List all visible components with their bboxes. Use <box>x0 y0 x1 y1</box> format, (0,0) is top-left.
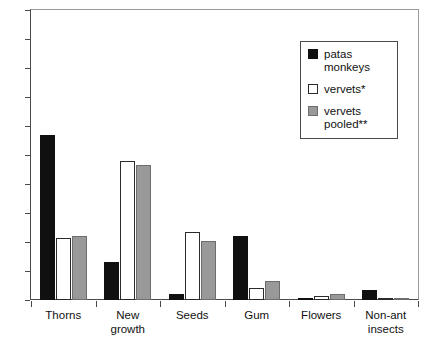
x-axis: ThornsNewgrowthSeedsGumFlowersNon-antins… <box>31 301 418 341</box>
bar-group <box>96 10 161 300</box>
y-tick-mark <box>25 300 30 301</box>
y-tick-mark <box>25 155 30 156</box>
bar <box>362 290 377 300</box>
x-tick-label-line: Gum <box>225 309 290 323</box>
bar <box>330 294 345 300</box>
x-tick-label-line: Flowers <box>289 309 354 323</box>
legend-item[interactable]: vervets* <box>308 83 390 96</box>
x-tick-mark <box>96 301 97 307</box>
x-tick-label-line: growth <box>96 323 161 337</box>
bar-group <box>160 10 225 300</box>
y-tick-mark <box>25 126 30 127</box>
x-tick-label: Newgrowth <box>96 309 161 336</box>
legend-item[interactable]: patas monkeys <box>308 48 390 74</box>
bar <box>40 135 55 300</box>
y-tick-mark <box>25 184 30 185</box>
bar <box>201 241 216 300</box>
legend-item[interactable]: vervets pooled** <box>308 105 390 131</box>
y-tick-mark <box>25 271 30 272</box>
x-tick-mark <box>31 301 32 307</box>
x-tick-label-line: New <box>96 309 161 323</box>
x-tick-mark <box>160 301 161 307</box>
x-tick-label: Non-antinsects <box>354 309 419 336</box>
bar <box>72 236 87 300</box>
x-tick-label: Seeds <box>160 309 225 323</box>
bar-group <box>31 10 96 300</box>
bar <box>298 298 313 300</box>
x-tick-label: Gum <box>225 309 290 323</box>
bar <box>233 236 248 300</box>
y-tick-mark <box>25 10 30 11</box>
x-tick-label: Flowers <box>289 309 354 323</box>
x-tick-label-line: insects <box>354 323 419 337</box>
bar-group <box>225 10 290 300</box>
x-tick-mark <box>354 301 355 307</box>
black-filled-square-icon <box>308 49 318 59</box>
legend-item-label: patas monkeys <box>324 48 390 74</box>
bar <box>136 165 151 300</box>
bar <box>314 296 329 300</box>
legend-item-label: vervets pooled** <box>324 105 390 131</box>
x-tick-label: Thorns <box>31 309 96 323</box>
white-square-icon <box>308 84 318 94</box>
bar <box>169 294 184 300</box>
legend-item-label: vervets* <box>324 83 366 96</box>
y-tick-mark <box>25 213 30 214</box>
bar <box>185 232 200 300</box>
bar <box>378 298 393 300</box>
bar <box>104 262 119 300</box>
x-tick-mark <box>418 301 419 307</box>
bar <box>120 161 135 300</box>
y-tick-mark <box>25 68 30 69</box>
bar <box>265 281 280 300</box>
x-tick-mark <box>225 301 226 307</box>
x-tick-label-line: Thorns <box>31 309 96 323</box>
chart-legend: patas monkeysvervets*vervets pooled** <box>300 41 398 139</box>
x-tick-label-line: Seeds <box>160 309 225 323</box>
gray-filled-square-icon <box>308 106 318 116</box>
x-tick-mark <box>289 301 290 307</box>
x-tick-label-line: Non-ant <box>354 309 419 323</box>
bar <box>249 288 264 300</box>
bar <box>56 238 71 300</box>
bar-chart: 0102030405060708090100 ThornsNewgrowthSe… <box>0 0 430 341</box>
y-axis: 0102030405060708090100 <box>0 0 30 341</box>
y-tick-mark <box>25 242 30 243</box>
bar <box>394 298 409 300</box>
y-tick-mark <box>25 97 30 98</box>
y-tick-mark <box>25 39 30 40</box>
